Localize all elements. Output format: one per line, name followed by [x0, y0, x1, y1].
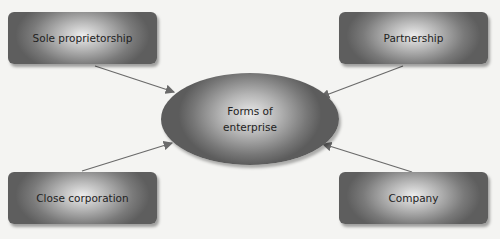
node-close-corporation: Close corporation [8, 172, 157, 224]
node-label: Company [389, 192, 439, 204]
node-partnership: Partnership [339, 12, 488, 64]
center-label-line1: Forms of [223, 103, 277, 119]
node-label: Partnership [384, 32, 444, 44]
node-label: Sole proprietorship [33, 32, 133, 44]
arrow-sole-to-center [95, 66, 174, 92]
node-label: Close corporation [36, 192, 128, 204]
center-node-forms-of-enterprise: Forms of enterprise [161, 73, 339, 165]
arrow-partnership-to-center [321, 66, 403, 97]
center-label-line2: enterprise [223, 119, 277, 135]
arrow-close-to-center [82, 143, 172, 171]
arrow-company-to-center [323, 144, 412, 172]
node-company: Company [339, 172, 488, 224]
node-sole-proprietorship: Sole proprietorship [8, 12, 157, 64]
